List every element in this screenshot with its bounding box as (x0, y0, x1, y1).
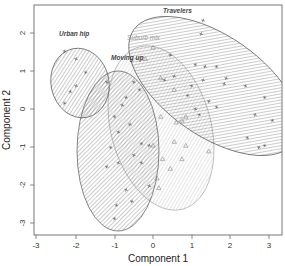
x-tick-label: -3 (32, 241, 40, 250)
label-suburb-mix: Suburb mix (127, 34, 161, 41)
y-tick-label: 1 (18, 68, 27, 73)
label-travelers: Travelers (163, 7, 192, 14)
y-axis (30, 33, 34, 223)
x-axis-title: Component 1 (128, 253, 188, 264)
cluster-plot: Urban hip Suburb mix Moving up Travelers… (0, 0, 285, 266)
label-moving-up: Moving up (111, 54, 144, 62)
x-axis (36, 235, 269, 239)
y-axis-title: Component 2 (1, 90, 12, 150)
y-tick-label: -2 (18, 181, 27, 189)
y-tick-labels: 2 1 0 -1 -2 -3 (18, 30, 27, 226)
y-tick-label: 0 (18, 106, 27, 111)
x-tick-label: -1 (111, 241, 119, 250)
y-tick-label: -3 (18, 219, 27, 227)
x-tick-labels: -3 -2 -1 0 1 2 3 (32, 241, 271, 250)
y-tick-label: 2 (18, 30, 27, 35)
x-tick-label: 2 (228, 241, 233, 250)
x-tick-label: -2 (72, 241, 80, 250)
x-tick-label: 3 (267, 241, 272, 250)
x-tick-label: 1 (190, 241, 195, 250)
y-tick-label: -1 (18, 143, 27, 151)
x-tick-label: 0 (151, 241, 156, 250)
ellipse-moving-up (77, 71, 159, 231)
label-urban-hip: Urban hip (59, 30, 89, 38)
